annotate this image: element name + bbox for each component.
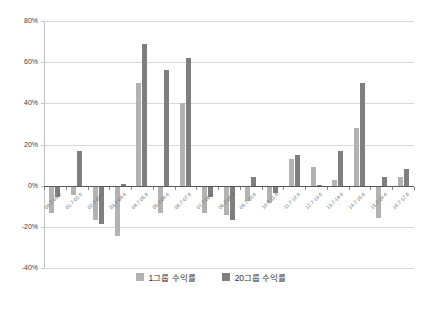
gridline-40% [44, 103, 414, 104]
x-axis-zero-line [44, 186, 414, 187]
x-axis-tick [240, 187, 241, 190]
legend-item-group20: 20그룹 수익률 [222, 271, 287, 283]
x-axis-tick [175, 187, 176, 190]
gridline-80% [44, 21, 414, 22]
x-axis-tick [349, 187, 350, 190]
x-axis-tick [88, 187, 89, 190]
x-axis-tick [370, 187, 371, 190]
y-axis-line [44, 21, 45, 268]
legend-swatch-group20-icon [222, 273, 230, 281]
x-axis-label: 11.7-12.6 [282, 191, 301, 210]
bar-group20-06.7-07.6 [186, 58, 191, 186]
bar-group1-12.7-13.6 [311, 167, 316, 186]
x-axis-tick [218, 187, 219, 190]
bar-group20-16.7-17.6 [404, 169, 409, 186]
bar-group20-01.7-02.6 [77, 151, 82, 186]
bar-group20-05.7-06.6 [164, 70, 169, 185]
x-axis-tick [392, 187, 393, 190]
legend-label-group20: 20그룹 수익률 [235, 271, 287, 283]
x-axis-label: 16.7-17.6 [391, 191, 410, 210]
x-axis-tick [196, 187, 197, 190]
x-axis-tick [66, 187, 67, 190]
gridline--20% [44, 227, 414, 228]
bar-group20-15.7-16.6 [382, 177, 387, 185]
x-axis-label: 14.7-15.6 [347, 191, 366, 210]
y-axis-label: 80% [0, 17, 38, 25]
bar-group20-04.7-05.6 [142, 44, 147, 186]
x-axis-label: 13.7-14.6 [325, 191, 344, 210]
x-axis-tick [262, 187, 263, 190]
bar-group1-16.7-17.6 [398, 177, 403, 185]
x-axis-tick [131, 187, 132, 190]
x-axis-tick [44, 187, 45, 190]
x-axis-tick [109, 187, 110, 190]
legend-swatch-group1-icon [136, 273, 144, 281]
bar-group20-14.7-15.6 [360, 83, 365, 186]
y-axis-label: 0% [0, 182, 38, 190]
y-axis-label: -20% [0, 223, 38, 231]
bar-group1-11.7-12.6 [289, 159, 294, 186]
x-axis-label: 04.7-05.6 [130, 191, 149, 210]
x-axis-label: 12.7-13.6 [304, 191, 323, 210]
y-axis-label: 60% [0, 58, 38, 66]
bar-group20-11.7-12.6 [295, 155, 300, 186]
x-axis-tick [153, 187, 154, 190]
x-axis-tick [327, 187, 328, 190]
plot-area: 80%60%40%20%0%-20%-40%00.7-01.601.7-02.6… [0, 0, 422, 309]
legend: 1그룹 수익률 20그룹 수익률 [0, 269, 422, 285]
bar-group1-14.7-15.6 [354, 128, 359, 186]
bar-chart-figure: 80%60%40%20%0%-20%-40%00.7-01.601.7-02.6… [0, 0, 422, 309]
x-axis-tick [414, 187, 415, 190]
y-axis-label: 20% [0, 141, 38, 149]
x-axis-label: 06.7-07.6 [173, 191, 192, 210]
bar-group20-13.7-14.6 [338, 151, 343, 186]
legend-item-group1: 1그룹 수익률 [136, 271, 196, 283]
x-axis-tick [283, 187, 284, 190]
x-axis-tick [305, 187, 306, 190]
legend-label-group1: 1그룹 수익률 [149, 271, 196, 283]
bar-group20-09.7-10.6 [251, 177, 256, 185]
bar-group1-04.7-05.6 [136, 83, 141, 186]
gridline-60% [44, 62, 414, 63]
y-axis-label: 40% [0, 99, 38, 107]
bar-group1-13.7-14.6 [332, 180, 337, 186]
bar-group1-06.7-07.6 [180, 103, 185, 185]
